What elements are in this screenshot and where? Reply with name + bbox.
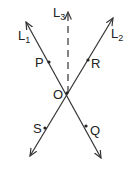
point-o <box>66 92 69 95</box>
point-r <box>86 58 89 61</box>
label-s: S <box>33 121 42 136</box>
label-l3: L3 <box>53 5 65 22</box>
point-p <box>47 60 50 63</box>
point-q <box>84 124 87 127</box>
label-r: R <box>91 56 100 71</box>
label-q: Q <box>90 123 100 138</box>
label-l2: L2 <box>111 26 123 43</box>
line-l2 <box>30 18 113 156</box>
intersecting-lines-diagram: L1 L2 L3 P R S Q O <box>0 0 134 171</box>
label-p: P <box>35 55 44 70</box>
point-s <box>43 126 46 129</box>
label-o: O <box>53 87 63 102</box>
label-l1: L1 <box>18 28 30 45</box>
